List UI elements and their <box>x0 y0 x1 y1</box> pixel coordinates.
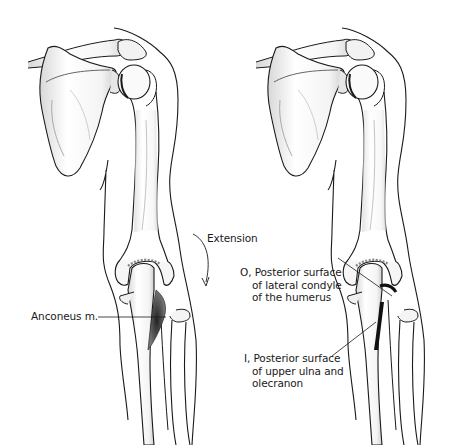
anconeus-label: Anconeus m. <box>31 310 98 323</box>
origin-label-line3: of the humerus <box>240 291 342 304</box>
left-arm-illustration <box>28 28 209 445</box>
anatomy-figure: Extension Anconeus m. O, Posterior surfa… <box>0 0 452 445</box>
extension-arrow <box>193 234 208 282</box>
extension-label: Extension <box>207 232 258 245</box>
origin-label-line1: O, Posterior surface <box>240 266 342 279</box>
insertion-label-line1: I, Posterior surface <box>244 352 344 365</box>
insertion-label-line2: of upper ulna and <box>244 365 344 378</box>
origin-label: O, Posterior surface of lateral condyle … <box>240 266 342 304</box>
origin-label-line2: of lateral condyle <box>240 279 342 292</box>
insertion-label: I, Posterior surface of upper ulna and o… <box>244 352 344 390</box>
anatomy-illustration <box>0 0 452 445</box>
insertion-label-line3: olecranon <box>244 377 344 390</box>
